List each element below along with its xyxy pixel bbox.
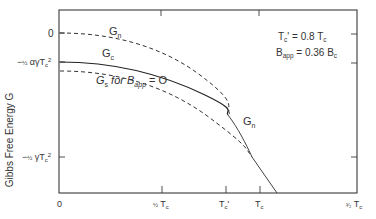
label-gn-lower: Gn	[243, 115, 256, 129]
x-label-tc: Tc	[255, 199, 264, 210]
label-gs: Gs for Bapp = O	[96, 74, 168, 89]
x-label-three-half: ³⁄₂ Tc	[346, 199, 362, 210]
x-label-zero: 0	[57, 199, 62, 209]
series-gn-dashed	[60, 33, 230, 115]
y-label-alpha: −½ αγTc2	[17, 57, 52, 68]
label-gn: Gn	[109, 25, 122, 39]
x-label-half: ½ Tc	[153, 199, 169, 210]
label-gc: Gc	[102, 47, 115, 61]
annotation-bapp: Bapp = 0.36 Bc	[276, 47, 338, 60]
y-label-gamma: −½ γTc2	[22, 152, 52, 163]
y-label-zero: 0	[48, 28, 54, 39]
x-label-tcprime: Tc'	[219, 199, 230, 210]
y-axis-title: Gibbs Free Energy G	[4, 93, 15, 188]
gibbs-energy-chart: Gn Gc Gs for Bapp = O Gn Tc' = 0.8 Tc Ba…	[0, 0, 376, 219]
annotation-tc-prime: Tc' = 0.8 Tc	[278, 31, 327, 43]
series-gc-solid	[60, 62, 228, 115]
